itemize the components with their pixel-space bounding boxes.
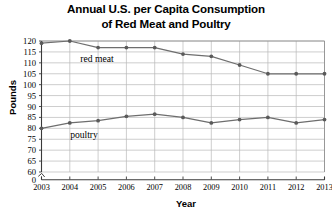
data-point bbox=[238, 63, 242, 67]
series-label-poultry: poultry bbox=[70, 129, 98, 140]
y-axis-tick-label: 90 bbox=[27, 102, 36, 112]
axis-break-symbol bbox=[38, 173, 44, 177]
data-point bbox=[209, 54, 213, 58]
data-point bbox=[40, 41, 44, 45]
data-point bbox=[96, 119, 100, 123]
data-point bbox=[181, 116, 185, 120]
x-axis-tick-label: 2007 bbox=[146, 183, 163, 192]
data-point bbox=[40, 126, 44, 130]
chart-container: Annual U.S. per Capita Consumption of Re… bbox=[0, 0, 332, 218]
data-point bbox=[153, 112, 157, 116]
data-point bbox=[323, 118, 327, 122]
x-axis-tick-label: 2011 bbox=[260, 183, 276, 192]
x-axis-tick-label: 2008 bbox=[175, 183, 192, 192]
y-axis-tick-label: 95 bbox=[27, 91, 36, 101]
series-annotations: red meatpoultry bbox=[70, 53, 114, 140]
x-axis-tick-label: 2012 bbox=[288, 183, 305, 192]
y-axis-tick-label: 120 bbox=[23, 36, 36, 46]
y-axis-tick-label: 100 bbox=[23, 80, 36, 90]
data-point bbox=[96, 46, 100, 50]
y-axis-tick-label: 65 bbox=[27, 156, 36, 166]
data-point bbox=[125, 114, 129, 118]
x-axis-tick-label: 2010 bbox=[231, 183, 248, 192]
y-axis-tick-label: 105 bbox=[23, 69, 36, 79]
x-axis-tick-label: 2006 bbox=[118, 183, 135, 192]
data-point bbox=[266, 116, 270, 120]
y-axis-tick-label: 110 bbox=[23, 58, 36, 68]
data-point bbox=[209, 121, 213, 125]
data-point bbox=[294, 121, 298, 125]
data-point bbox=[153, 46, 157, 50]
y-axis-tick-label: 80 bbox=[27, 123, 36, 133]
data-point bbox=[294, 72, 298, 76]
data-point bbox=[125, 46, 129, 50]
y-axis-tick-label: 115 bbox=[23, 47, 36, 57]
data-point bbox=[238, 118, 242, 122]
x-axis-tick-label: 2005 bbox=[90, 183, 107, 192]
data-point bbox=[181, 52, 185, 56]
y-axis-tick-label: 70 bbox=[27, 145, 36, 155]
x-axis-ticks: 2003200420052006200720082009201020112012… bbox=[33, 177, 332, 192]
data-point bbox=[68, 39, 72, 43]
y-axis-tick-label: 85 bbox=[27, 112, 36, 122]
y-axis-ticks: 60657075808590951001051101151200 bbox=[23, 36, 41, 185]
plot-area: 60657075808590951001051101151200 2003200… bbox=[0, 0, 332, 218]
x-axis-tick-label: 2003 bbox=[33, 183, 50, 192]
y-axis-tick-label: 75 bbox=[27, 134, 36, 144]
x-axis-tick-label: 2013 bbox=[316, 183, 332, 192]
data-point bbox=[323, 72, 327, 76]
data-point bbox=[68, 121, 72, 125]
series-label-red-meat: red meat bbox=[80, 53, 114, 64]
data-point bbox=[266, 72, 270, 76]
x-axis-tick-label: 2004 bbox=[62, 183, 79, 192]
x-axis-tick-label: 2009 bbox=[203, 183, 220, 192]
